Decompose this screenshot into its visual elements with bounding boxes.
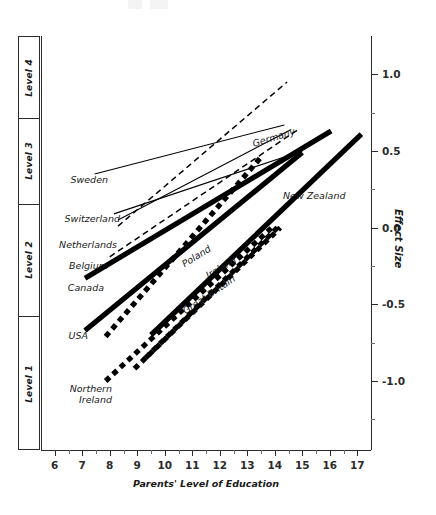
education-tick bbox=[165, 450, 166, 456]
education-minor-tick bbox=[151, 450, 152, 454]
education-tick bbox=[137, 450, 138, 456]
level-band-label: Level 1 bbox=[24, 365, 34, 403]
education-minor-tick bbox=[124, 450, 125, 454]
series-label-usa: USA bbox=[69, 331, 88, 342]
education-tick bbox=[192, 450, 193, 456]
education-tick bbox=[275, 450, 276, 456]
education-minor-tick bbox=[344, 450, 345, 454]
series-label-line: Ireland bbox=[70, 395, 112, 406]
level-band-1: Level 1 bbox=[19, 316, 39, 451]
series-label-switzerland: Switzerland bbox=[65, 214, 120, 225]
series-label-sweden: Sweden bbox=[70, 175, 108, 186]
education-axis: Parents' Level of Education 678910111213… bbox=[41, 450, 371, 510]
level-band-4: Level 4 bbox=[19, 37, 39, 118]
education-minor-tick bbox=[261, 450, 262, 454]
education-minor-tick bbox=[316, 450, 317, 454]
education-minor-tick bbox=[179, 450, 180, 454]
education-tick-label: 13 bbox=[240, 459, 255, 471]
education-tick bbox=[55, 450, 56, 456]
education-minor-tick bbox=[234, 450, 235, 454]
level-axis: Level 4Level 3Level 2Level 1 bbox=[18, 36, 40, 450]
effect-size-minor-tick bbox=[371, 189, 375, 190]
education-tick-label: 16 bbox=[322, 459, 337, 471]
series-label-belgium: Belgium bbox=[69, 261, 108, 272]
effect-size-tick bbox=[371, 304, 378, 305]
effect-size-minor-tick bbox=[371, 343, 375, 344]
effect-size-axis-title: Effect Size bbox=[393, 209, 404, 268]
series-label-netherlands: Netherlands bbox=[59, 240, 117, 251]
chart-figure: Level 4Level 3Level 2Level 1 SwedenSwitz… bbox=[0, 0, 436, 515]
effect-size-minor-tick bbox=[371, 113, 375, 114]
effect-size-tick-label: -0.5 bbox=[382, 298, 405, 310]
education-minor-tick bbox=[69, 450, 70, 454]
effect-size-tick bbox=[371, 381, 378, 382]
education-tick bbox=[220, 450, 221, 456]
level-band-label: Level 2 bbox=[24, 241, 34, 279]
education-minor-tick bbox=[289, 450, 290, 454]
education-tick-label: 6 bbox=[51, 459, 58, 471]
education-tick-label: 11 bbox=[185, 459, 200, 471]
series-label-new-zealand: New Zealand bbox=[283, 191, 345, 202]
level-band-label: Level 3 bbox=[24, 142, 34, 180]
education-tick-label: 15 bbox=[295, 459, 310, 471]
effect-size-tick-label: -1.0 bbox=[382, 375, 405, 387]
effect-size-minor-tick bbox=[371, 266, 375, 267]
education-tick bbox=[247, 450, 248, 456]
effect-size-tick bbox=[371, 151, 378, 152]
education-tick-label: 9 bbox=[134, 459, 141, 471]
effect-size-minor-tick bbox=[371, 419, 375, 420]
education-tick-label: 17 bbox=[350, 459, 365, 471]
level-band-2: Level 2 bbox=[19, 204, 39, 316]
education-tick bbox=[82, 450, 83, 456]
series-label-canada: Canada bbox=[68, 283, 104, 294]
education-tick bbox=[357, 450, 358, 456]
education-minor-tick bbox=[206, 450, 207, 454]
education-tick bbox=[330, 450, 331, 456]
education-tick-label: 12 bbox=[212, 459, 227, 471]
effect-size-tick-label: 1.0 bbox=[382, 68, 401, 80]
effect-size-tick bbox=[371, 228, 378, 229]
education-axis-title: Parents' Level of Education bbox=[41, 478, 371, 489]
effect-size-tick bbox=[371, 74, 378, 75]
education-tick-label: 10 bbox=[157, 459, 172, 471]
education-tick bbox=[302, 450, 303, 456]
level-band-3: Level 3 bbox=[19, 118, 39, 204]
education-tick bbox=[110, 450, 111, 456]
education-tick-label: 14 bbox=[267, 459, 282, 471]
education-tick-label: 7 bbox=[79, 459, 86, 471]
level-band-label: Level 4 bbox=[24, 59, 34, 97]
education-tick-label: 8 bbox=[106, 459, 113, 471]
cropped-header-artifact bbox=[128, 0, 188, 9]
effect-size-tick-label: 0.5 bbox=[382, 145, 401, 157]
education-minor-tick bbox=[96, 450, 97, 454]
series-label-northern-ireland: NorthernIreland bbox=[70, 384, 112, 405]
series-line-canada bbox=[85, 131, 331, 278]
